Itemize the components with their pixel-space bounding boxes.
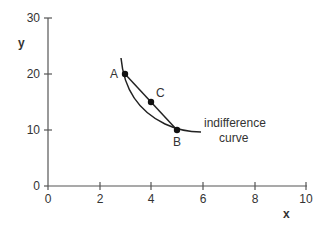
point-b-label: B bbox=[173, 135, 181, 149]
point-c-marker bbox=[148, 99, 154, 105]
x-tick-label: 2 bbox=[97, 192, 104, 206]
y-tick-label: 20 bbox=[27, 67, 41, 81]
x-tick-label: 10 bbox=[299, 192, 313, 206]
x-tick-label: 0 bbox=[45, 192, 52, 206]
point-a-label: A bbox=[110, 67, 118, 81]
y-tick-label: 0 bbox=[33, 179, 40, 193]
point-a-marker bbox=[122, 71, 128, 77]
y-tick-label: 30 bbox=[27, 11, 41, 25]
x-tick-label: 8 bbox=[252, 192, 259, 206]
point-b-marker bbox=[174, 127, 180, 133]
curve-annotation-line1: indifference bbox=[204, 116, 266, 130]
x-tick-label: 4 bbox=[148, 192, 155, 206]
x-axis-label: x bbox=[283, 207, 290, 221]
point-c-label: C bbox=[156, 86, 165, 100]
y-tick-label: 10 bbox=[27, 123, 41, 137]
y-axis-label: y bbox=[18, 36, 25, 50]
x-tick-label: 6 bbox=[200, 192, 207, 206]
indifference-curve-chart: 30 20 10 0 0 2 4 6 8 10 y x A C B indiff… bbox=[0, 0, 322, 233]
curve-annotation-line2: curve bbox=[219, 131, 249, 145]
